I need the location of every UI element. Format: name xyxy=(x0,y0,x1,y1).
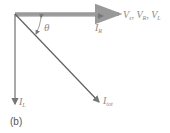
voltage-label: Vs, VR, VL xyxy=(123,9,161,21)
phasor-diagram: Vs, VR, VL IR θ IL Itot (b) xyxy=(0,0,170,133)
itot-vector xyxy=(15,14,99,102)
caption: (b) xyxy=(10,116,22,127)
theta-label: θ xyxy=(44,21,50,33)
ir-label: IR xyxy=(94,22,102,34)
angle-arc xyxy=(36,18,41,34)
il-label: IL xyxy=(18,96,26,108)
itot-label: Itot xyxy=(102,95,113,107)
